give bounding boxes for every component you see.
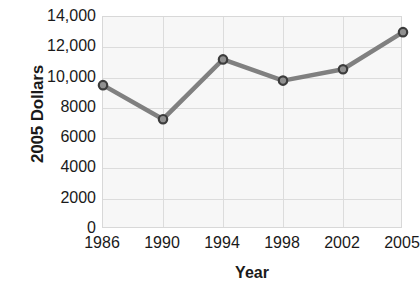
data-point-marker: [159, 115, 167, 123]
data-point-marker: [399, 28, 407, 36]
line-chart: 2005 Dollars 14,00012,00010,000800060004…: [0, 0, 420, 293]
series-line-2005-dollars: [103, 17, 403, 229]
y-axis-tick-label: 4000: [36, 159, 96, 175]
y-axis-tick-labels: 14,00012,00010,00080006000400020000: [36, 16, 96, 228]
y-axis-tick-label: 10,000: [36, 69, 96, 85]
y-axis-tick-label: 8000: [36, 99, 96, 115]
y-axis-tick-label: 6000: [36, 129, 96, 145]
x-axis-tick-label: 2005: [367, 234, 420, 252]
data-point-marker: [339, 65, 347, 73]
x-axis-tick-labels: 198619901994199820022005: [102, 234, 402, 258]
y-axis-tick-label: 14,000: [36, 8, 96, 24]
x-axis-title: Year: [102, 264, 402, 282]
y-axis-tick-label: 12,000: [36, 38, 96, 54]
data-point-marker: [99, 81, 107, 89]
series-polyline: [103, 32, 403, 119]
plot-area: [102, 16, 402, 228]
y-axis-tick-label: 2000: [36, 190, 96, 206]
data-point-marker: [219, 55, 227, 63]
data-point-marker: [279, 76, 287, 84]
